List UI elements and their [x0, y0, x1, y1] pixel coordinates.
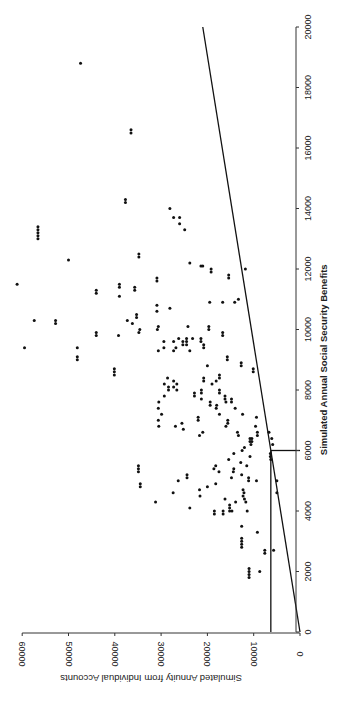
data-point — [247, 479, 250, 482]
data-point — [240, 361, 243, 364]
data-point — [240, 543, 243, 546]
data-point — [76, 355, 79, 358]
data-point — [272, 549, 275, 552]
data-point — [137, 467, 140, 470]
data-point — [218, 392, 221, 395]
data-point — [200, 392, 203, 395]
data-point — [54, 319, 57, 322]
data-point — [263, 549, 266, 552]
data-point — [188, 261, 191, 264]
data-point — [222, 513, 225, 516]
data-point — [16, 283, 19, 286]
data-point — [172, 340, 175, 343]
data-point — [240, 473, 243, 476]
x-tick-label: 8000 — [303, 380, 313, 400]
data-point — [214, 464, 217, 467]
data-point — [168, 207, 171, 210]
data-point — [155, 310, 158, 313]
data-point — [174, 425, 177, 428]
data-point — [193, 392, 196, 395]
data-point — [36, 225, 39, 228]
x-tick-label: 18000 — [303, 75, 313, 100]
data-point — [206, 485, 209, 488]
data-point — [228, 503, 231, 506]
data-point — [175, 389, 178, 392]
x-tick-label: 6000 — [303, 440, 313, 460]
data-point — [248, 437, 251, 440]
data-point — [198, 488, 201, 491]
data-point — [95, 334, 98, 337]
data-point — [177, 479, 180, 482]
data-point — [236, 431, 239, 434]
data-point — [157, 325, 160, 328]
data-point — [248, 440, 251, 443]
data-point — [157, 349, 160, 352]
data-point — [137, 252, 140, 255]
data-point — [226, 422, 229, 425]
data-point — [113, 373, 116, 376]
data-point — [160, 413, 163, 416]
data-point — [155, 277, 158, 280]
data-point — [222, 510, 225, 513]
reference-lines — [203, 27, 300, 632]
data-point — [157, 401, 160, 404]
data-point — [23, 346, 26, 349]
data-point — [157, 419, 160, 422]
data-point — [230, 510, 233, 513]
data-point — [221, 331, 224, 334]
data-point — [245, 464, 248, 467]
data-point — [36, 234, 39, 237]
data-point — [233, 301, 236, 304]
x-tick-label: 14000 — [303, 196, 313, 221]
y-tick-label: 60000 — [17, 641, 27, 666]
data-point — [218, 389, 221, 392]
data-point — [226, 419, 229, 422]
data-point — [95, 289, 98, 292]
data-point — [241, 413, 244, 416]
data-point — [117, 334, 120, 337]
data-point — [33, 319, 36, 322]
data-point — [172, 379, 175, 382]
data-point — [163, 395, 166, 398]
data-point — [67, 258, 70, 261]
data-point — [118, 295, 121, 298]
data-point — [248, 576, 251, 579]
data-point — [248, 573, 251, 576]
data-point — [118, 286, 121, 289]
data-point — [244, 268, 247, 271]
data-point — [224, 401, 227, 404]
data-point — [275, 479, 278, 482]
data-point — [163, 382, 166, 385]
data-point — [202, 379, 205, 382]
data-point — [172, 349, 175, 352]
data-point — [186, 476, 189, 479]
data-point — [175, 382, 178, 385]
data-point — [212, 467, 215, 470]
data-point — [207, 325, 210, 328]
data-point — [271, 443, 274, 446]
data-point — [167, 385, 170, 388]
x-axis-label: Simulated Annual Social Security Benefit… — [318, 264, 329, 455]
data-point — [269, 458, 272, 461]
data-point — [162, 340, 165, 343]
data-point — [155, 280, 158, 283]
data-point — [226, 355, 229, 358]
data-point — [95, 331, 98, 334]
data-point — [157, 407, 160, 410]
data-point — [118, 283, 121, 286]
x-tick-label: 20000 — [303, 14, 313, 39]
data-point — [275, 491, 278, 494]
data-point — [177, 337, 180, 340]
diagonal-line — [203, 27, 300, 632]
data-point — [232, 467, 235, 470]
data-point — [188, 349, 191, 352]
x-tick-label: 12000 — [303, 256, 313, 281]
data-point — [154, 500, 157, 503]
data-point — [137, 331, 140, 334]
data-point — [214, 482, 217, 485]
data-point — [188, 506, 191, 509]
data-point — [247, 476, 250, 479]
data-point — [218, 413, 221, 416]
data-point — [113, 370, 116, 373]
data-point — [181, 340, 184, 343]
